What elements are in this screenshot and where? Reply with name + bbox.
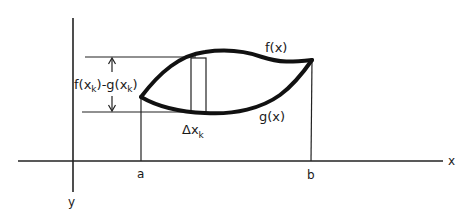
f-curve-label: f(x) (265, 40, 287, 55)
representative-strip (191, 58, 206, 113)
area-between-curves-diagram: f(xk)-g(xk) f(x) g(x) Δxk a b x y (0, 0, 469, 222)
x-axis-label: x (448, 154, 455, 168)
delta-x-label: Δxk (182, 122, 205, 140)
bound-label-b: b (307, 168, 315, 182)
bound-line-b (311, 60, 312, 161)
bound-label-a: a (137, 167, 144, 181)
g-curve-label: g(x) (259, 109, 285, 124)
y-axis-label: y (68, 195, 75, 209)
height-label: f(xk)-g(xk) (74, 77, 138, 94)
